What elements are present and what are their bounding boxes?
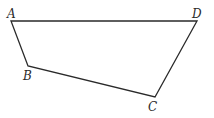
vertex-label-c: C	[148, 100, 157, 114]
quadrilateral-abcd	[11, 21, 197, 97]
vertex-label-d: D	[191, 7, 202, 21]
vertex-label-a: A	[6, 7, 16, 21]
quadrilateral-diagram: A B C D	[0, 0, 214, 118]
vertex-label-b: B	[22, 69, 32, 83]
